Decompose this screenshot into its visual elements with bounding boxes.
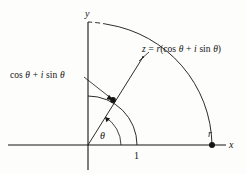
unit-point-label-theta-2: θ [60,70,65,80]
unit-tick-label: 1 [134,151,139,161]
unit-point-label-sin: sin [46,70,57,80]
r-label: r [208,130,212,140]
y-axis-label: y [85,9,89,19]
unit-circle-arc [88,96,137,145]
theta-angle-label: θ [100,131,105,141]
unit-point-label-cos: cos [10,70,23,80]
z-point-label-close-paren: ) [218,44,221,54]
z-point-marker [142,56,144,58]
z-point-label-cos: cos [163,44,176,54]
z-point-label-sin: sin [199,44,210,54]
diagram-canvas [0,0,246,174]
x-axis-label: x [229,140,233,150]
complex-plane-diagram: y x 1 r θ cos θ + i sin θ z = r(cos θ + … [0,0,246,174]
outer-circle-arc-dashed [88,22,108,25]
outer-circle-arc [108,25,212,146]
unit-point-label: cos θ + i sin θ [10,71,65,81]
z-point-label: z = r(cos θ + i sin θ) [142,45,221,55]
unit-point-marker [110,97,116,103]
theta-arc-arrowhead [105,117,110,122]
r-point-marker [209,142,215,148]
